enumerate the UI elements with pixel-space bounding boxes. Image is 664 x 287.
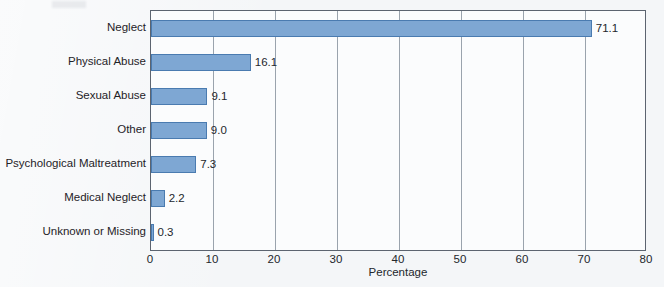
bar-value-label: 9.1	[207, 88, 227, 105]
category-label: Sexual Abuse	[4, 87, 150, 104]
x-tick-label: 20	[268, 253, 281, 265]
category-axis-labels: NeglectPhysical AbuseSexual AbuseOtherPs…	[0, 10, 150, 251]
scan-artifact	[52, 1, 86, 8]
bar	[151, 88, 207, 105]
bar-row: 7.3	[151, 148, 645, 182]
bar	[151, 122, 207, 139]
x-tick-label: 70	[578, 253, 591, 265]
plot-area: 71.116.19.19.07.32.20.3	[150, 10, 646, 251]
bar-row: 9.0	[151, 114, 645, 148]
bar-chart: NeglectPhysical AbuseSexual AbuseOtherPs…	[0, 0, 664, 287]
bar-value-label: 7.3	[196, 156, 216, 173]
bar	[151, 156, 196, 173]
category-label: Neglect	[4, 19, 150, 36]
bar-value-label: 16.1	[251, 54, 277, 71]
x-tick-label: 80	[640, 253, 653, 265]
bar	[151, 54, 251, 71]
bar-row: 9.1	[151, 80, 645, 114]
x-tick-label: 40	[392, 253, 405, 265]
x-tick-label: 50	[454, 253, 467, 265]
x-axis-title: Percentage	[150, 266, 646, 278]
bar	[151, 190, 165, 207]
x-tick-label: 10	[206, 253, 219, 265]
category-label: Unknown or Missing	[4, 223, 150, 240]
bar-row: 0.3	[151, 216, 645, 250]
bar-row: 2.2	[151, 182, 645, 216]
bar-value-label: 71.1	[592, 20, 618, 37]
bar-value-label: 9.0	[207, 122, 227, 139]
category-label: Psychological Maltreatment	[4, 155, 150, 172]
category-label: Medical Neglect	[4, 189, 150, 206]
category-label: Physical Abuse	[4, 53, 150, 70]
category-label: Other	[4, 121, 150, 138]
x-tick-label: 30	[330, 253, 343, 265]
bar-value-label: 2.2	[165, 190, 185, 207]
x-tick-label: 0	[147, 253, 153, 265]
bar-value-label: 0.3	[154, 224, 174, 241]
bar	[151, 20, 592, 37]
x-tick-label: 60	[516, 253, 529, 265]
bar-row: 71.1	[151, 12, 645, 46]
bar-row: 16.1	[151, 46, 645, 80]
